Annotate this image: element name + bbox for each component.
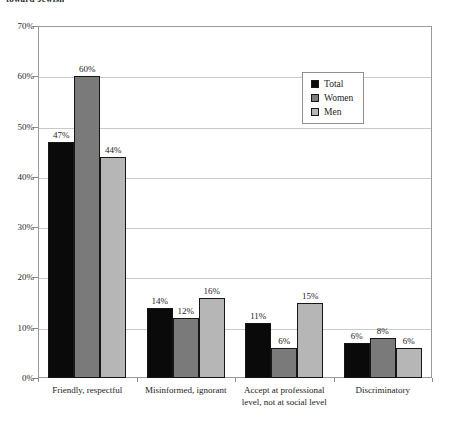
- chart-legend: Total Women Men: [302, 72, 364, 124]
- bar-slot: 16%: [199, 26, 225, 378]
- bar-group-bars: 14%12%16%: [137, 26, 236, 378]
- bar-group-bars: 47%60%44%: [38, 26, 137, 378]
- bar-chart: toward Jewish 0%10%20%30%40%50%60%70% 47…: [0, 0, 452, 426]
- x-axis-category-labels: Friendly, respectfulMisinformed, ignoran…: [38, 384, 432, 408]
- y-tick-label: 30%: [0, 223, 34, 232]
- legend-label-total: Total: [324, 79, 343, 89]
- bar-slot: 6%: [271, 26, 297, 378]
- bar-slot: 8%: [370, 26, 396, 378]
- legend-item-total[interactable]: Total: [311, 77, 353, 91]
- bar[interactable]: [147, 308, 173, 378]
- bar[interactable]: [344, 343, 370, 378]
- legend-label-men: Men: [324, 107, 341, 117]
- y-tick-label: 40%: [0, 173, 34, 182]
- x-axis-category-label: Friendly, respectful: [38, 384, 137, 408]
- bar-slot: 60%: [74, 26, 100, 378]
- bar[interactable]: [297, 303, 323, 378]
- y-tick-label: 70%: [0, 22, 34, 31]
- bar-slot: 47%: [48, 26, 74, 378]
- bar[interactable]: [271, 348, 297, 378]
- y-tick-label: 50%: [0, 123, 34, 132]
- bar[interactable]: [173, 318, 199, 378]
- legend-swatch-women-icon: [311, 94, 319, 102]
- bar[interactable]: [100, 157, 126, 378]
- bar-slot: 14%: [147, 26, 173, 378]
- legend-label-women: Women: [324, 93, 353, 103]
- y-tick-label: 20%: [0, 273, 34, 282]
- bar[interactable]: [396, 348, 422, 378]
- bar-value-label: 16%: [192, 287, 232, 296]
- bar[interactable]: [48, 142, 74, 378]
- y-tick-label: 10%: [0, 324, 34, 333]
- y-tick-label: 60%: [0, 72, 34, 81]
- x-axis-category-label-line: level, not at social level: [237, 396, 332, 408]
- x-tick-mark: [235, 378, 236, 382]
- x-tick-mark: [38, 378, 39, 382]
- x-tick-mark: [334, 378, 335, 382]
- legend-item-men[interactable]: Men: [311, 105, 353, 119]
- bar-groups: 47%60%44%14%12%16%11%6%15%6%8%6%: [38, 26, 432, 378]
- x-axis-category-label-line: Discriminatory: [336, 384, 431, 396]
- bar-slot: 44%: [100, 26, 126, 378]
- bar-slot: 6%: [396, 26, 422, 378]
- chart-title-fragment: toward Jewish: [6, 0, 64, 4]
- bar[interactable]: [199, 298, 225, 378]
- legend-swatch-men-icon: [311, 108, 319, 116]
- legend-item-women[interactable]: Women: [311, 91, 353, 105]
- bar-value-label: 15%: [290, 292, 330, 301]
- bar-value-label: 44%: [93, 146, 133, 155]
- bar-group: 14%12%16%: [137, 26, 236, 378]
- y-tick-label: 0%: [0, 374, 34, 383]
- x-axis-category-label: Discriminatory: [334, 384, 433, 408]
- bar-slot: 12%: [173, 26, 199, 378]
- bar[interactable]: [74, 76, 100, 378]
- bar-slot: 11%: [245, 26, 271, 378]
- x-axis-category-label: Accept at professionallevel, not at soci…: [235, 384, 334, 408]
- bar[interactable]: [245, 323, 271, 378]
- legend-swatch-total-icon: [311, 80, 319, 88]
- x-axis-category-label-line: Misinformed, ignorant: [139, 384, 234, 396]
- x-tick-mark: [432, 378, 433, 382]
- bar-group: 47%60%44%: [38, 26, 137, 378]
- x-axis-category-label-line: Accept at professional: [237, 384, 332, 396]
- bar-value-label: 6%: [389, 337, 429, 346]
- x-axis-category-label-line: Friendly, respectful: [40, 384, 135, 396]
- x-tick-mark: [137, 378, 138, 382]
- x-axis-category-label: Misinformed, ignorant: [137, 384, 236, 408]
